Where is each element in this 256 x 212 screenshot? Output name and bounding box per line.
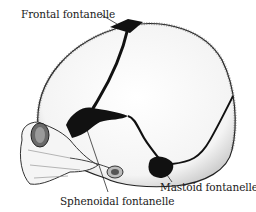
label-sphenoidal-fontanelle: Sphenoidal fontanelle: [60, 195, 174, 207]
skull-illustration: Frontal fontanelle Mastoid fontanelle Sp…: [0, 0, 256, 212]
label-mastoid-fontanelle: Mastoid fontanelle: [160, 181, 256, 193]
label-frontal-fontanelle: Frontal fontanelle: [21, 8, 115, 20]
